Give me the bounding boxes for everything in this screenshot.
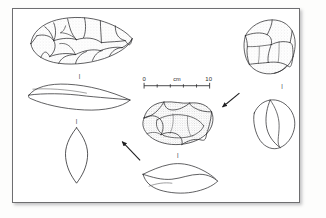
divider-polyhedral-core: | — [281, 83, 283, 89]
artifact-polyhedral-core-dorsal — [244, 20, 295, 74]
artifact-handaxe-profile — [29, 84, 131, 110]
lithic-drawing-canvas: | | 0 cm 10 — [13, 9, 299, 202]
scale-bar: 0 cm 10 — [142, 76, 212, 89]
artifact-handaxe-section — [65, 128, 87, 183]
artifact-polyhedral-core-profile — [254, 100, 295, 149]
divider-handaxe-profile: | — [76, 118, 78, 124]
scale-bar-unit-label: cm — [173, 76, 181, 82]
scale-bar-start-label: 0 — [142, 76, 146, 82]
scale-bar-end-label: 10 — [205, 76, 212, 82]
artifact-handaxe-dorsal — [31, 17, 132, 64]
figure-root: | | 0 cm 10 — [0, 0, 326, 218]
divider-handaxe-dorsal: | — [79, 73, 81, 79]
artifact-discoid-core-profile — [143, 164, 217, 194]
divider-discoid-core: | — [177, 152, 179, 158]
artifact-discoid-core-dorsal — [143, 102, 213, 145]
arrow-discoid-to-handaxe — [122, 142, 140, 161]
arrow-core-to-discoid — [223, 93, 240, 107]
figure-plate-frame: | | 0 cm 10 — [12, 8, 300, 203]
